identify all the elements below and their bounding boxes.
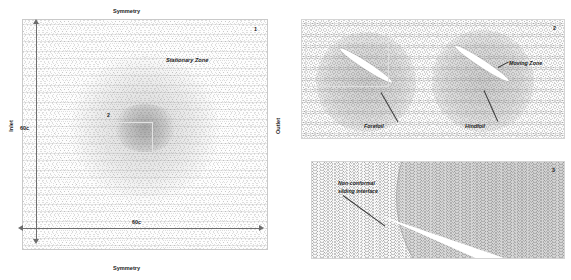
boundary-label-inlet: Inlet: [8, 106, 14, 146]
vertical-axis-line: [36, 23, 37, 241]
sliding-interface-label-line1: Non-conformal: [338, 180, 375, 186]
moving-zone-hindfoil: [432, 30, 534, 132]
forefoil-label: Forefoil: [364, 123, 384, 129]
panel-number-2: 2: [553, 25, 556, 31]
zoom-region-box-2[interactable]: [107, 122, 153, 153]
clipped-caption-text: [0, 0, 571, 4]
axis-arrow-left-icon: [18, 225, 23, 231]
zoom-region-box-3[interactable]: [305, 41, 389, 87]
boundary-label-symmetry-top: Symmetry: [113, 8, 140, 14]
horizontal-axis-line: [22, 228, 262, 229]
moving-zone-label: Moving Zone: [509, 60, 542, 66]
sliding-interface-label-line2: sliding interface: [338, 188, 378, 194]
sliding-interface-arc: [396, 161, 565, 259]
figure-root: 2 60c 60c Stationary Zone 1 Symmetry Sym…: [0, 0, 571, 280]
dimension-label-vertical: 60c: [20, 125, 29, 131]
stationary-zone-label: Stationary Zone: [166, 57, 208, 63]
panel-moving-zone: 3 2 Moving Zone Forefoil Hindfoil: [301, 19, 565, 139]
axis-arrow-up-icon: [33, 19, 39, 24]
sliding-interface-label: Non-conformal sliding interface: [338, 180, 378, 195]
axis-arrow-right-icon: [259, 225, 264, 231]
zoom-region-label-2: 2: [107, 112, 110, 118]
leader-line-sliding-interface: [343, 195, 386, 226]
hindfoil-label: Hindfoil: [465, 123, 485, 129]
axis-arrow-down-icon: [33, 239, 39, 244]
panel-number-3: 3: [552, 167, 555, 173]
boundary-label-outlet: Outlet: [275, 106, 281, 146]
panel-number-1: 1: [254, 26, 257, 32]
dimension-label-horizontal: 60c: [132, 219, 141, 225]
boundary-label-symmetry-bottom: Symmetry: [113, 265, 140, 271]
panel-sliding-interface: 3 Non-conformal sliding interface: [311, 161, 565, 259]
